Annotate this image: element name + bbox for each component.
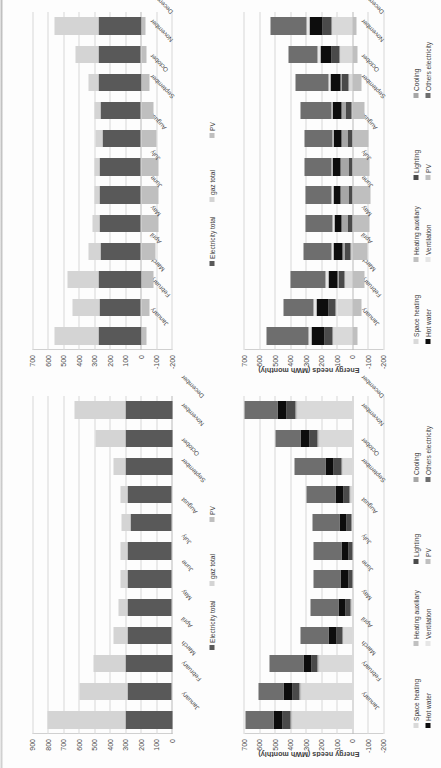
legend-swatch-icon [425,93,430,98]
legend-swatch-icon [413,477,418,482]
legend-label: Others electricity [424,426,431,475]
legend-label: PV [424,164,431,173]
legend-item[interactable]: Heating auxiliary [412,206,419,262]
legend-swatch-icon [425,339,430,344]
legend-item[interactable]: Hot water [424,309,431,344]
chart-bottom-left-needs: -200-1000100200300400500600700Energy nee… [230,384,441,768]
legend-swatch-icon [209,133,214,138]
legend-item[interactable]: gaz total [208,554,215,586]
legend-item[interactable]: PV [424,548,431,564]
legend-label: Electricity total [208,216,215,259]
panel-lower-left: -200-1000100200300400500600700Energy nee… [230,384,441,768]
legend-label: Space heating [412,295,419,337]
legend-item[interactable]: gaz total [208,170,215,202]
legend-swatch-icon [425,723,430,728]
legend-label: Space heating [412,679,419,721]
legend-label: gaz total [208,554,215,579]
legend-label: PV [208,506,215,515]
legend-swatch-icon [413,93,418,98]
legend-label: Ventilation [424,225,431,255]
legend-swatch-icon [209,645,214,650]
legend-item[interactable]: Lighting [412,534,419,564]
legend-item[interactable]: PV [208,506,215,522]
legend-label: Ventilation [424,609,431,639]
legend-item[interactable]: Lighting [412,150,419,180]
legend-swatch-icon [413,723,418,728]
legend-label: Electricity total [208,600,215,643]
legend-item[interactable]: Space heating [412,679,419,728]
legend-label: Cooling [412,69,419,91]
legend-label: Heating auxiliary [412,206,419,255]
chart-top-left-totals: 0100200300400500600700800900JanuaryFebru… [18,384,230,768]
legend-swatch-icon [413,257,418,262]
panel-upper-right: -200-1000100200300400500600700JanuaryFeb… [18,0,230,384]
legend-item[interactable]: Others electricity [424,426,431,482]
legend-swatch-icon [413,559,418,564]
legend-swatch-icon [209,197,214,202]
legend-label: Hot water [424,693,431,721]
legend-swatch-icon [413,175,418,180]
legend-item[interactable]: Cooling [412,69,419,98]
legend-label: Heating auxiliary [412,590,419,639]
legend-label: Lighting [412,150,419,173]
legend-label: PV [424,548,431,557]
chart-top-right-totals: -200-1000100200300400500600700JanuaryFeb… [18,0,230,384]
scan-edge-artifact [0,0,2,768]
legend-swatch-icon [413,339,418,344]
legend-swatch-icon [425,257,430,262]
chart-legend: Space heatingHeating auxiliaryLightingCo… [230,0,441,384]
legend-item[interactable]: Space heating [412,295,419,344]
legend-swatch-icon [209,261,214,266]
scanned-page: 0100200300400500600700800900JanuaryFebru… [0,0,441,768]
legend-swatch-icon [209,517,214,522]
legend-item[interactable]: Ventilation [424,225,431,262]
legend-item[interactable]: PV [424,164,431,180]
legend-item[interactable]: PV [208,122,215,138]
chart-bottom-right-needs: -200-1000100200300400500600700Energy nee… [230,0,441,384]
legend-swatch-icon [425,641,430,646]
legend-label: Others electricity [424,42,431,91]
legend-swatch-icon [413,641,418,646]
legend-label: Lighting [412,534,419,557]
panel-lower-right: -200-1000100200300400500600700Energy nee… [230,0,441,384]
legend-item[interactable]: Hot water [424,693,431,728]
legend-label: Cooling [412,453,419,475]
legend-label: Hot water [424,309,431,337]
legend-item[interactable]: Heating auxiliary [412,590,419,646]
legend-label: gaz total [208,170,215,195]
panel-upper-left: 0100200300400500600700800900JanuaryFebru… [18,384,230,768]
legend-swatch-icon [425,175,430,180]
legend-swatch-icon [425,477,430,482]
legend-label: PV [208,122,215,131]
chart-sheet: 0100200300400500600700800900JanuaryFebru… [18,0,441,768]
chart-legend: Electricity totalgaz totalPV [18,0,230,384]
chart-legend: Space heatingHeating auxiliaryLightingCo… [230,384,441,768]
legend-item[interactable]: Others electricity [424,42,431,98]
legend-item[interactable]: Electricity total [208,600,215,650]
legend-item[interactable]: Ventilation [424,609,431,646]
chart-legend: Electricity totalgaz totalPV [18,384,230,768]
legend-swatch-icon [425,559,430,564]
legend-item[interactable]: Electricity total [208,216,215,266]
legend-item[interactable]: Cooling [412,453,419,482]
legend-swatch-icon [209,581,214,586]
